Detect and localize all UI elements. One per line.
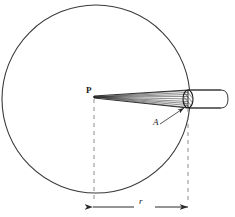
cylinder-tube <box>188 90 228 108</box>
figure-container: P A r <box>0 0 235 217</box>
radius-label: r <box>139 197 143 206</box>
point-source-label: P <box>86 86 92 95</box>
aperture-area <box>183 90 193 108</box>
aperture-area-label: A <box>153 118 159 127</box>
sphere-circle <box>2 5 190 193</box>
diagram-canvas <box>0 0 235 217</box>
point-source-marker <box>93 96 95 98</box>
aperture-leader-line <box>160 108 184 124</box>
